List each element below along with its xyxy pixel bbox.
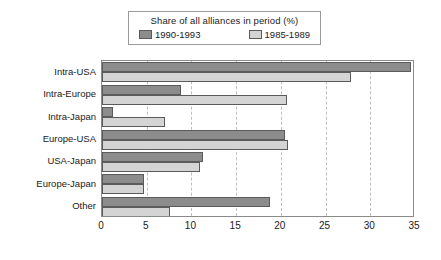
bar-group [102, 197, 413, 217]
chart-legend: Share of all alliances in period (%) 199… [128, 11, 321, 45]
bar-series-b [102, 184, 144, 194]
x-axis-tick-label: 30 [364, 220, 375, 232]
bar-series-a [102, 174, 144, 184]
legend-entry-1985-1989: 1985-1989 [249, 29, 310, 40]
legend-entries: 1990-1993 1985-1989 [135, 29, 314, 40]
x-axis-tick-label: 20 [274, 220, 285, 232]
legend-entry-1990-1993: 1990-1993 [139, 29, 200, 40]
y-axis-label: Intra-Japan [0, 111, 96, 122]
x-axis-tick-label: 0 [98, 220, 104, 232]
bar-series-b [102, 207, 170, 217]
bar-group [102, 174, 413, 194]
legend-label-series-b: 1985-1989 [265, 29, 310, 40]
legend-swatch-icon-series-b [249, 30, 262, 39]
x-axis-tick-label: 5 [143, 220, 149, 232]
bar-chart: Share of all alliances in period (%) 199… [0, 0, 441, 260]
y-axis-label: Other [0, 200, 96, 211]
bar-series-b [102, 95, 287, 105]
y-axis-label: Europe-Japan [0, 178, 96, 189]
bar-series-b [102, 162, 200, 172]
bar-group [102, 130, 413, 150]
bar-series-a [102, 130, 285, 140]
y-axis-label: USA-Japan [0, 155, 96, 166]
bar-group [102, 85, 413, 105]
legend-title: Share of all alliances in period (%) [135, 15, 314, 27]
y-axis-category-labels: Intra-USAIntra-EuropeIntra-JapanEurope-U… [0, 60, 96, 217]
bar-series-b [102, 117, 165, 127]
legend-swatch-icon-series-a [139, 30, 152, 39]
plot-area [101, 60, 414, 217]
bar-group [102, 152, 413, 172]
legend-label-series-a: 1990-1993 [155, 29, 200, 40]
x-axis-tick-labels: 05101520253035 [101, 220, 414, 236]
x-axis-tick-label: 35 [408, 220, 419, 232]
bar-series-a [102, 152, 203, 162]
y-axis-label: Intra-USA [0, 66, 96, 77]
bar-series-a [102, 197, 270, 207]
bar-series-a [102, 62, 411, 72]
y-axis-label: Europe-USA [0, 133, 96, 144]
bar-series-a [102, 85, 181, 95]
bar-group [102, 62, 413, 82]
bar-series-b [102, 140, 288, 150]
bar-series-b [102, 72, 351, 82]
x-axis-tick-label: 15 [230, 220, 241, 232]
x-axis-tick-label: 25 [319, 220, 330, 232]
x-axis-tick-label: 10 [185, 220, 196, 232]
y-axis-label: Intra-Europe [0, 88, 96, 99]
bar-series-a [102, 107, 113, 117]
bars-layer [102, 61, 413, 216]
bar-group [102, 107, 413, 127]
